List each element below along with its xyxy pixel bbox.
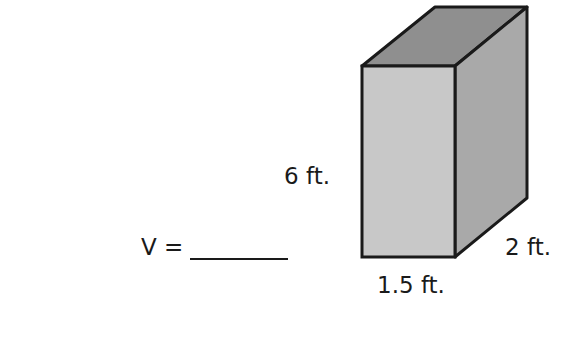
prism-front-face	[362, 66, 455, 257]
width-label: 1.5 ft.	[377, 274, 445, 297]
height-label: 6 ft.	[284, 165, 330, 188]
depth-label: 2 ft.	[505, 236, 551, 259]
